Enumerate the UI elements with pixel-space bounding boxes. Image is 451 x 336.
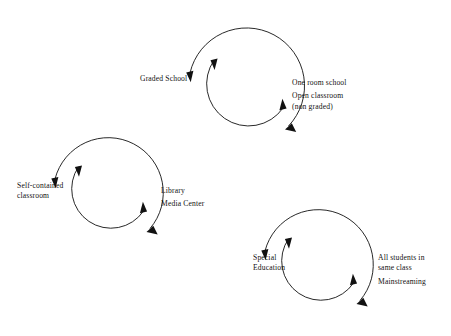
label-line: Library bbox=[161, 186, 204, 196]
label-self-contained-classroom: Self-contained classroom bbox=[17, 181, 63, 202]
label-line: Self-contained bbox=[17, 181, 63, 191]
outer-arc-self-contained bbox=[55, 138, 163, 229]
label-line: Mainstreaming bbox=[378, 277, 426, 287]
label-line: classroom bbox=[17, 191, 63, 201]
inner-arc-arrowhead-up-self-contained bbox=[140, 202, 147, 213]
inner-arc-arrowhead-up-special-education bbox=[350, 274, 357, 285]
label-line: same class bbox=[378, 263, 426, 273]
label-one-room-school-group: One room school Open classroom (non grad… bbox=[292, 78, 347, 112]
label-line: (non graded) bbox=[292, 102, 347, 112]
label-library-media-center: Library Media Center bbox=[161, 186, 204, 210]
label-line: All students in bbox=[378, 253, 426, 263]
diagram-page: Graded School One room school Open class… bbox=[0, 0, 451, 336]
label-line: Graded School bbox=[140, 74, 187, 84]
label-graded-school: Graded School bbox=[140, 74, 187, 84]
label-line: Media Center bbox=[161, 199, 204, 209]
inner-arc-special-education bbox=[282, 239, 354, 300]
outer-arc-arrowhead-up-graded-school bbox=[285, 123, 296, 132]
inner-arc-self-contained bbox=[72, 167, 144, 228]
inner-arc-graded-school bbox=[207, 60, 283, 126]
label-line: One room school bbox=[292, 78, 347, 88]
label-special-education: Special Education bbox=[253, 253, 285, 274]
label-all-students-mainstreaming: All students in same class Mainstreaming bbox=[378, 253, 426, 287]
outer-arc-arrowhead-up-special-education bbox=[357, 298, 368, 307]
label-line: Open classroom bbox=[292, 91, 347, 101]
inner-arc-arrowhead-up-graded-school bbox=[279, 99, 286, 110]
cycle-unit-graded-school bbox=[186, 28, 304, 132]
cycle-unit-self-contained bbox=[51, 138, 163, 235]
label-line: Education bbox=[253, 263, 285, 273]
label-line: Special bbox=[253, 253, 285, 263]
outer-arc-arrowhead-up-self-contained bbox=[147, 226, 158, 235]
